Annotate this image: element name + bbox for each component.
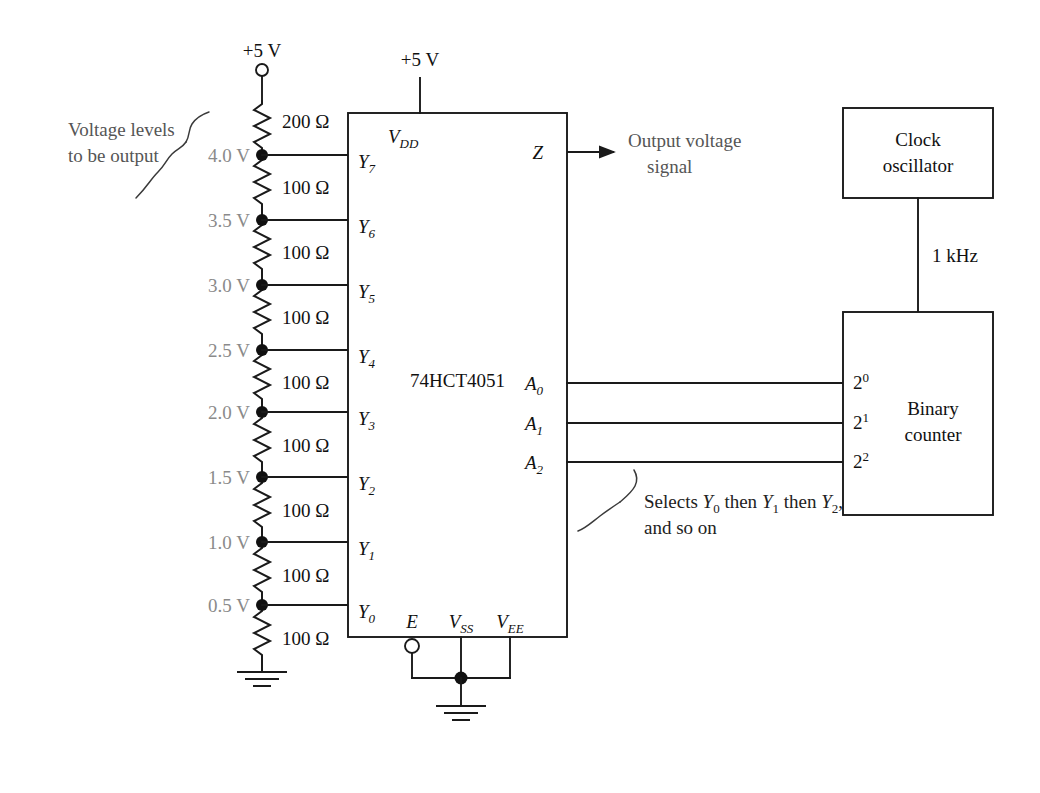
resistor-label-0: 100 Ω: [282, 177, 329, 198]
pin-label-z: Z: [532, 142, 543, 163]
resistor-200-ohm: [254, 100, 270, 155]
supply-label-left: +5 V: [243, 40, 282, 61]
voltage-label-2v: 2.0 V: [208, 402, 250, 423]
resistor-label-4: 100 Ω: [282, 435, 329, 456]
supply-label-chip: +5 V: [401, 49, 440, 70]
pin-sub-y7: 7: [369, 161, 376, 176]
counter-pin-exp-0: 0: [863, 370, 870, 385]
pin-sub-y3: 3: [368, 418, 376, 433]
voltage-label-2p5v: 2.5 V: [208, 340, 250, 361]
pin-sub-y1: 1: [369, 548, 376, 563]
counter-pin-exp-2: 2: [863, 449, 870, 464]
resistor-label-6: 100 Ω: [282, 565, 329, 586]
voltage-levels-leader-tail: [186, 112, 209, 142]
ground-symbol-chip: [436, 706, 486, 720]
voltage-label-1p5v: 1.5 V: [208, 467, 250, 488]
resistor-label-1: 100 Ω: [282, 242, 329, 263]
output-signal-annotation-line1: Output voltage: [628, 130, 741, 151]
ground-symbol-ladder: [237, 672, 287, 686]
pin-sub-a2: 2: [537, 462, 544, 477]
clock-oscillator-box: [843, 108, 993, 198]
selects-annotation-line1: Selects Y0 then Y1 then Y2,: [644, 491, 843, 516]
voltage-label-4v: 4.0 V: [208, 145, 250, 166]
address-pin-labels: A0 A1 A2: [523, 373, 544, 477]
pin-sub-y0: 0: [369, 611, 376, 626]
pin-sub-y6: 6: [369, 226, 376, 241]
clock-oscillator-label-line2: oscillator: [883, 155, 954, 176]
voltage-label-1v: 1.0 V: [208, 532, 250, 553]
resistor-200-label: 200 Ω: [282, 111, 329, 132]
voltage-levels-annotation-line2: to be output: [68, 145, 159, 166]
selects-annotation-line2: and so on: [644, 517, 717, 538]
voltage-label-0p5v: 0.5 V: [208, 595, 250, 616]
pin-sub-a1: 1: [537, 423, 544, 438]
pin-sub-y2: 2: [369, 483, 376, 498]
binary-counter-label-line1: Binary: [907, 398, 959, 419]
pin-label-a2: A: [523, 452, 537, 473]
pin-label-e: E: [405, 611, 418, 632]
pin-sub-y5: 5: [369, 291, 376, 306]
resistor-label-5: 100 Ω: [282, 500, 329, 521]
counter-pin-2-1: 2: [853, 412, 863, 433]
circuit-diagram-canvas: +5 V 200 Ω 100 Ω 100 Ω 100 Ω 100 Ω 100 Ω…: [0, 0, 1040, 793]
resistor-label-3: 100 Ω: [282, 372, 329, 393]
selects-annotation-leader-tail: [620, 470, 637, 502]
selects-annotation-leader: [578, 502, 620, 531]
pin-sub-y4: 4: [369, 356, 376, 371]
pin-label-a1: A: [523, 413, 537, 434]
clock-oscillator-label-line1: Clock: [895, 129, 941, 150]
counter-pin-2-0: 2: [853, 372, 863, 393]
circuit-svg: +5 V 200 Ω 100 Ω 100 Ω 100 Ω 100 Ω 100 Ω…: [0, 0, 1040, 793]
pin-sub-a0: 0: [537, 383, 544, 398]
ic-chip-label: 74HCT4051: [410, 370, 505, 391]
binary-counter-label-line2: counter: [905, 424, 963, 445]
supply-terminal-left: [256, 64, 268, 100]
resistor-label-2: 100 Ω: [282, 307, 329, 328]
pin-label-a0: A: [523, 373, 537, 394]
output-signal-annotation-line2: signal: [647, 156, 692, 177]
address-bus-wires: [567, 383, 843, 462]
bottom-pin-wires: [405, 637, 510, 706]
voltage-label-3p5v: 3.5 V: [208, 210, 250, 231]
clock-frequency-label: 1 kHz: [932, 245, 978, 266]
voltage-levels-annotation-line1: Voltage levels: [68, 119, 175, 140]
resistor-label-7: 100 Ω: [282, 628, 329, 649]
counter-pin-2-2: 2: [853, 451, 863, 472]
counter-pin-exp-1: 1: [863, 410, 870, 425]
voltage-label-3v: 3.0 V: [208, 275, 250, 296]
